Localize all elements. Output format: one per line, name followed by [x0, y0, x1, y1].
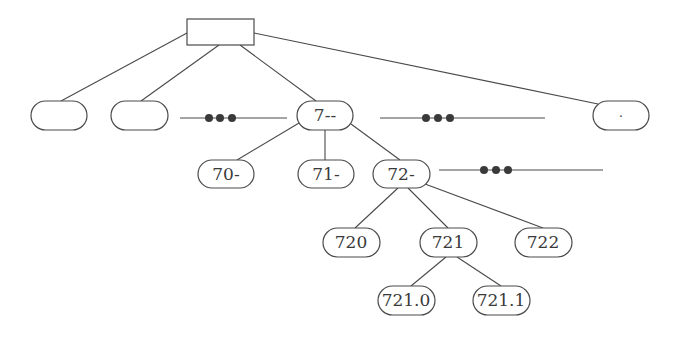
node-n1 — [31, 101, 87, 130]
tree-diagram: 7-- . 70- 71- 72- 720 721 722 721.0 721.… — [0, 0, 675, 338]
node-71: 71- — [298, 160, 354, 188]
edge-root-n1 — [61, 33, 187, 101]
svg-text:722: 722 — [527, 232, 559, 252]
edge-n7-n72 — [351, 124, 400, 160]
edge-root-n7 — [240, 45, 316, 101]
svg-text:720: 720 — [335, 232, 367, 252]
svg-text:71-: 71- — [312, 164, 339, 184]
svg-text:70-: 70- — [212, 164, 239, 184]
node-72: 72- — [373, 160, 430, 188]
edge-n72-n722 — [425, 184, 543, 228]
node-n2 — [111, 101, 168, 130]
svg-text:72-: 72- — [387, 164, 414, 184]
node-721: 721 — [420, 228, 477, 257]
root-node — [187, 19, 254, 45]
edge-n72-n720 — [355, 188, 398, 228]
edge-n72-n721 — [408, 188, 448, 228]
svg-text:7--: 7-- — [314, 105, 336, 125]
edge-root-n2 — [141, 45, 219, 101]
node-722: 722 — [515, 228, 572, 257]
ellipsis-level1-left — [180, 114, 287, 122]
edge-n7-n70 — [237, 123, 299, 160]
edge-n721-n7211 — [457, 257, 501, 286]
edge-n721-n7210 — [411, 257, 446, 286]
svg-text:.: . — [619, 106, 623, 120]
node-70: 70- — [198, 160, 254, 188]
svg-text:721: 721 — [432, 232, 464, 252]
ellipsis-level1-right — [380, 114, 545, 122]
node-7: 7-- — [297, 101, 353, 130]
node-last: . — [593, 101, 649, 130]
node-721-0: 721.0 — [378, 286, 435, 315]
svg-text:721.0: 721.0 — [382, 290, 431, 310]
svg-text:721.1: 721.1 — [477, 290, 526, 310]
node-720: 720 — [323, 228, 380, 257]
ellipsis-level2 — [439, 166, 603, 174]
node-721-1: 721.1 — [473, 286, 530, 315]
